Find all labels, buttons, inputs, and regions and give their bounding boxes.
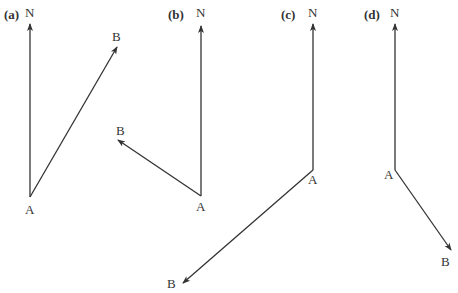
point-b-label: B (167, 276, 176, 291)
point-b-label: B (116, 123, 125, 138)
panel-d: (d) N B A (364, 5, 451, 269)
panel-b: (b) N B A (116, 5, 206, 214)
panel-label: (a) (4, 7, 19, 22)
point-b-label: B (112, 29, 121, 44)
bearing-arrow (118, 140, 201, 196)
point-a-label: A (384, 167, 394, 182)
panel-label: (b) (168, 7, 184, 22)
point-b-label: B (441, 254, 450, 269)
point-a-label: A (25, 202, 35, 217)
panel-c: (c) N B A (167, 5, 318, 291)
bearing-arrow (30, 47, 117, 197)
panel-a: (a) N B A (4, 5, 121, 217)
north-label: N (390, 5, 400, 20)
bearing-arrow (183, 170, 313, 283)
north-label: N (308, 5, 318, 20)
north-label: N (25, 5, 35, 20)
bearing-arrow (395, 170, 451, 250)
bearing-diagrams: (a) N B A (b) N B A (c) N B A (d) N B A (0, 0, 458, 293)
point-a-label: A (308, 172, 318, 187)
point-a-label: A (196, 199, 206, 214)
north-label: N (196, 5, 206, 20)
panel-label: (d) (364, 7, 380, 22)
panel-label: (c) (281, 7, 295, 22)
